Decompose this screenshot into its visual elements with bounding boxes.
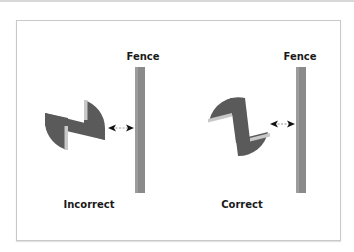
- correct-caption: Correct: [221, 199, 263, 210]
- left-cutter-icon: [45, 100, 105, 150]
- left-fence: [135, 67, 145, 193]
- left-gap-arrow-icon: [108, 125, 134, 132]
- right-fence: [296, 67, 306, 193]
- left-fence-label: Fence: [126, 51, 159, 62]
- right-fence-label: Fence: [283, 51, 316, 62]
- right-cutter-icon: [208, 97, 270, 156]
- right-gap-arrow-icon: [270, 121, 295, 128]
- diagram-canvas: [0, 0, 354, 252]
- incorrect-caption: Incorrect: [64, 199, 115, 210]
